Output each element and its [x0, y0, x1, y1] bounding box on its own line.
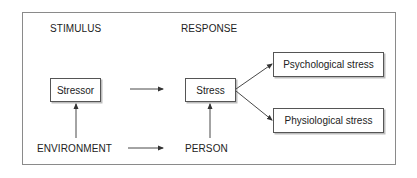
arrow-stress-to-psychological: [236, 64, 272, 89]
diagram-arrows: [0, 0, 417, 178]
arrow-stress-to-physiological: [236, 91, 272, 120]
